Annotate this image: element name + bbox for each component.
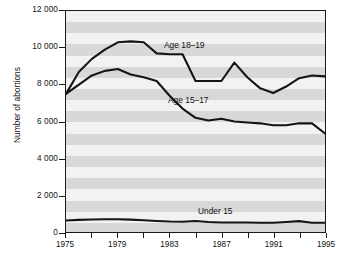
series-line-under-15 [66,219,325,222]
x-tick-mark [248,233,249,238]
y-axis-tick-labels: 02 0004 0006 0008 00010 00012 000 [0,0,58,259]
y-tick-mark [59,47,65,48]
x-tick-mark [169,233,170,238]
y-tick-mark [59,122,65,123]
y-tick-mark [59,159,65,160]
y-tick-label: 4 000 [37,154,58,163]
chart-figure: 02 0004 0006 0008 00010 00012 000 Number… [0,0,340,259]
y-tick-label: 2 000 [37,191,58,200]
series-label-under-15: Under 15 [198,206,232,216]
x-tick-mark [222,233,223,238]
x-tick-label: 1995 [317,240,335,250]
y-tick-label: 6 000 [37,117,58,126]
x-tick-mark [143,233,144,238]
x-tick-label: 1975 [56,240,74,250]
series-label-age-18-19: Age 18–19 [164,40,205,50]
y-tick-label: 8 000 [37,79,58,88]
x-tick-label: 1979 [108,240,126,250]
y-tick-mark [59,10,65,11]
y-tick-label: 12 000 [32,5,58,14]
y-tick-label: 0 [53,228,58,237]
x-tick-mark [326,233,327,238]
x-tick-mark [65,233,66,238]
series-label-age-15-17: Age 15–17 [168,95,209,105]
y-tick-mark [59,196,65,197]
x-tick-mark [300,233,301,238]
x-tick-label: 1987 [212,240,230,250]
y-axis-title: Number of abortions [12,40,22,170]
x-tick-mark [91,233,92,238]
x-tick-mark [274,233,275,238]
y-tick-label: 10 000 [32,42,58,51]
y-tick-mark [59,84,65,85]
x-tick-label: 1991 [265,240,283,250]
x-tick-mark [117,233,118,238]
x-tick-mark [196,233,197,238]
x-tick-label: 1983 [160,240,178,250]
